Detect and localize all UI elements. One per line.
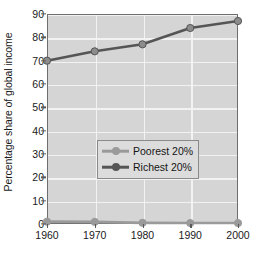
x-tick-mark bbox=[238, 224, 239, 228]
data-point-marker bbox=[91, 48, 98, 55]
y-tick-mark bbox=[41, 223, 46, 224]
series-layer bbox=[0, 0, 257, 259]
x-tick-mark bbox=[47, 224, 48, 228]
x-tick-label: 2000 bbox=[226, 229, 249, 241]
x-tick-mark bbox=[143, 224, 144, 228]
y-tick-mark bbox=[41, 177, 46, 178]
legend-marker-poorest-icon bbox=[102, 144, 129, 158]
y-tick-mark bbox=[41, 200, 46, 201]
y-tick-mark bbox=[41, 60, 46, 61]
x-tick-label: 1970 bbox=[83, 229, 106, 241]
legend-entry-poorest: Poorest 20% bbox=[102, 143, 193, 159]
y-tick-mark bbox=[41, 83, 46, 84]
x-tick-label: 1980 bbox=[131, 229, 154, 241]
legend-entry-richest: Richest 20% bbox=[102, 159, 193, 175]
x-tick-mark bbox=[95, 224, 96, 228]
legend-marker-richest-icon bbox=[102, 160, 129, 174]
x-tick-label: 1960 bbox=[35, 229, 58, 241]
data-point-marker bbox=[234, 17, 241, 24]
chart-figure: Percentage share of global income 010203… bbox=[0, 0, 257, 259]
y-tick-mark bbox=[41, 13, 46, 14]
y-tick-mark bbox=[41, 130, 46, 131]
data-point-marker bbox=[139, 41, 146, 48]
y-tick-mark bbox=[41, 37, 46, 38]
legend-label-richest: Richest 20% bbox=[133, 161, 192, 173]
x-tick-mark bbox=[190, 224, 191, 228]
legend-label-poorest: Poorest 20% bbox=[133, 145, 193, 157]
y-tick-mark bbox=[41, 153, 46, 154]
x-tick-label: 1990 bbox=[179, 229, 202, 241]
chart-legend: Poorest 20% Richest 20% bbox=[97, 140, 199, 179]
data-point-marker bbox=[187, 24, 194, 31]
y-tick-mark bbox=[41, 107, 46, 108]
